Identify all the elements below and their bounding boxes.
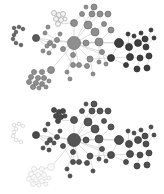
graph-node	[97, 157, 101, 161]
graph-node	[40, 179, 45, 184]
graph-node	[102, 22, 107, 27]
graph-node	[56, 119, 61, 124]
graph-node	[95, 135, 103, 143]
graph-canvas-top	[0, 0, 164, 97]
graph-node	[27, 177, 32, 182]
graph-node	[61, 109, 66, 114]
graph-node	[52, 11, 57, 16]
graph-node	[33, 35, 40, 42]
graph-node	[115, 39, 124, 48]
graph-node	[11, 134, 15, 138]
graph-node	[104, 62, 108, 66]
graph-node	[54, 114, 59, 119]
graph-node	[12, 26, 16, 30]
graph-node	[40, 82, 45, 87]
graph-node	[87, 56, 93, 62]
graph-node	[80, 12, 85, 17]
graph-node	[52, 108, 57, 113]
graph-node	[83, 40, 89, 46]
graph-node	[91, 4, 97, 10]
graph-node	[58, 32, 62, 36]
graph-node	[55, 38, 60, 43]
graph-node	[124, 160, 129, 165]
graph-node	[19, 140, 23, 144]
graph-node	[126, 44, 133, 51]
graph-node	[42, 76, 47, 81]
graph-node	[84, 102, 88, 106]
graph-node	[47, 51, 51, 55]
graph-node	[126, 32, 130, 36]
graph-node	[46, 122, 50, 126]
graph-node	[91, 125, 99, 133]
graph-node	[47, 148, 51, 152]
graph-node	[152, 36, 156, 40]
graph-node	[132, 131, 136, 135]
graph-node	[68, 134, 81, 147]
graph-node	[40, 167, 45, 172]
graph-node	[65, 167, 69, 171]
graph-node	[84, 118, 92, 126]
graph-node	[149, 28, 153, 32]
edges	[13, 7, 154, 88]
graph-node	[37, 183, 41, 187]
graph-node	[91, 28, 99, 36]
graph-node	[134, 66, 140, 72]
graph-node	[139, 31, 143, 35]
graph-node	[142, 133, 148, 139]
graph-node	[12, 130, 16, 134]
network-graph-top	[0, 0, 164, 97]
graph-node	[83, 137, 89, 143]
graph-node	[104, 159, 108, 163]
graph-node	[108, 27, 114, 33]
graph-node	[102, 119, 107, 124]
graph-node	[47, 176, 51, 180]
graph-node	[12, 33, 16, 37]
graph-node	[142, 36, 148, 42]
graph-node	[135, 40, 142, 47]
graph-node	[68, 37, 81, 50]
graph-node	[124, 63, 129, 68]
graph-node	[71, 20, 78, 27]
graph-node	[135, 137, 142, 144]
graph-node	[68, 77, 72, 81]
graph-node	[54, 17, 59, 22]
graph-node	[31, 182, 36, 187]
graph-node	[91, 169, 95, 173]
graph-node	[31, 85, 36, 90]
graph-node	[100, 147, 105, 152]
graph-node	[139, 128, 143, 132]
graph-node	[144, 162, 150, 168]
graph-node	[144, 65, 150, 71]
graph-node	[17, 122, 21, 126]
graph-node	[63, 17, 67, 21]
graph-node	[143, 141, 149, 147]
graph-node	[32, 70, 37, 75]
graph-node	[52, 44, 56, 48]
graph-node	[91, 72, 95, 76]
graph-node	[14, 138, 18, 142]
graph-node	[152, 133, 156, 137]
graph-node	[14, 41, 18, 45]
graph-node	[32, 167, 37, 172]
graph-node	[27, 80, 32, 85]
graph-node	[41, 49, 45, 53]
graph-node	[42, 173, 47, 178]
graph-node	[127, 54, 134, 61]
graph-node	[126, 129, 130, 133]
graph-node	[11, 37, 15, 41]
graph-node	[21, 27, 25, 31]
graph-node	[77, 160, 82, 165]
graph-node	[52, 141, 56, 145]
graph-node	[71, 53, 76, 58]
graph-node	[77, 63, 82, 68]
graph-node	[65, 70, 69, 74]
graph-node	[143, 44, 149, 50]
graph-node	[12, 123, 16, 127]
graph-node	[84, 21, 92, 29]
graph-node	[108, 124, 114, 130]
graph-node	[97, 108, 103, 114]
graph-node	[21, 124, 25, 128]
graph-node	[146, 53, 152, 59]
graph-node	[33, 132, 40, 139]
graph-node	[137, 152, 143, 158]
